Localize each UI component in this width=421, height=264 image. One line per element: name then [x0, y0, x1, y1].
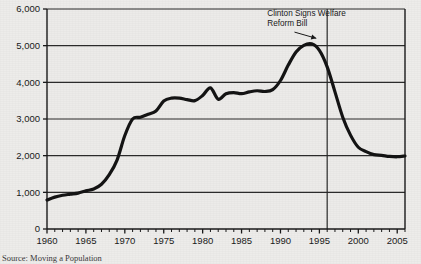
clinton-welfare-reform-annotation-line-1: Clinton Signs Welfare — [267, 9, 346, 18]
clinton-welfare-reform-annotation-line-2: Reform Bill — [267, 19, 307, 28]
welfare-caseload-line-chart: 01,0002,0003,0004,0005,0006,000 19601965… — [0, 0, 421, 264]
y-tick-label-5000: 5,000 — [16, 40, 40, 51]
y-tick-label-6000: 6,000 — [16, 3, 40, 14]
x-tick-label-1995: 1995 — [309, 235, 330, 246]
x-tick-label-2000: 2000 — [348, 235, 369, 246]
y-tick-label-3000: 3,000 — [16, 113, 40, 124]
y-tick-label-2000: 2,000 — [16, 150, 40, 161]
chart-figure: 01,0002,0003,0004,0005,0006,000 19601965… — [0, 0, 421, 264]
source-caption: Source: Moving a Population — [2, 253, 103, 263]
x-tick-label-1975: 1975 — [153, 235, 174, 246]
x-tick-label-1985: 1985 — [231, 235, 252, 246]
x-tick-label-1990: 1990 — [270, 235, 291, 246]
y-tick-label-1000: 1,000 — [16, 187, 40, 198]
x-tick-label-1970: 1970 — [114, 235, 135, 246]
x-tick-label-1980: 1980 — [192, 235, 213, 246]
x-tick-label-1965: 1965 — [75, 235, 96, 246]
x-tick-label-2005: 2005 — [387, 235, 408, 246]
y-tick-label-4000: 4,000 — [16, 77, 40, 88]
y-tick-label-0: 0 — [35, 223, 40, 234]
x-tick-label-1960: 1960 — [36, 235, 57, 246]
